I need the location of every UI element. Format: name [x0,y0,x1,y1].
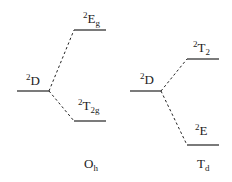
oh-lower-subscript: 2g [90,105,99,115]
td-upper-multiplicity: 2 [193,39,198,49]
td-lower-label: 2E [195,124,207,139]
td-symmetry-label: Td [197,157,209,172]
oh-symmetry-sub: h [93,163,98,173]
oh-upper-connector [49,30,74,91]
oh-symmetry-label: Oh [84,157,98,172]
oh-free-ion-term: D [31,73,40,88]
td-upper-label: 2T2 [193,41,210,56]
splitting-lines [0,0,232,182]
td-free-ion-term: D [145,72,154,87]
oh-free-ion-multiplicity: 2 [26,72,31,82]
td-symmetry-sub: d [205,163,210,173]
oh-lower-label: 2T2g [78,99,99,114]
td-lower-term: E [200,123,208,138]
td-upper-connector [161,59,187,91]
oh-free-ion-label: 2D [26,74,40,89]
oh-symmetry-main: O [84,156,93,171]
oh-lower-connector [49,91,74,121]
td-lower-connector [161,91,187,145]
oh-upper-multiplicity: 2 [83,10,88,20]
td-symmetry-main: T [197,156,205,171]
td-upper-subscript: 2 [205,47,210,57]
td-lower-multiplicity: 2 [195,122,200,132]
oh-upper-label: 2Eg [83,12,100,27]
oh-lower-multiplicity: 2 [78,97,83,107]
td-free-ion-multiplicity: 2 [140,71,145,81]
splitting-diagram: 2D 2Eg 2T2g Oh 2D 2T2 2E Td [0,0,232,182]
td-free-ion-label: 2D [140,73,154,88]
oh-upper-subscript: g [95,18,100,28]
